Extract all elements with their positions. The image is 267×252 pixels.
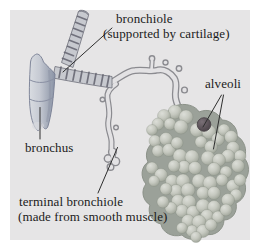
label-alveoli: alveoli xyxy=(205,77,241,92)
bronchus-shape xyxy=(29,54,55,131)
label-bronchiole-line1: bronchiole xyxy=(116,12,230,27)
label-bronchiole: bronchiole (supported by cartilage) xyxy=(103,12,230,41)
figure-canvas: bronchiole (supported by cartilage) alve… xyxy=(0,0,267,252)
label-bronchiole-line2: (supported by cartilage) xyxy=(103,27,230,42)
label-bronchus: bronchus xyxy=(25,141,73,156)
label-terminal-bronchiole: terminal bronchiole (made from smooth mu… xyxy=(19,195,167,224)
label-terminal-bronchiole-line1: terminal bronchiole xyxy=(19,195,167,210)
label-terminal-bronchiole-line2: (made from smooth muscle) xyxy=(18,210,167,225)
